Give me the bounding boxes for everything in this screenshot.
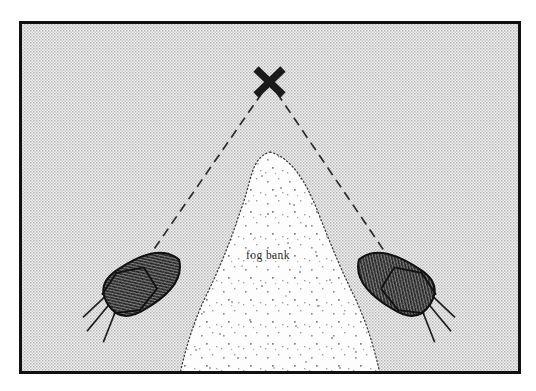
illustration-canvas: fog bank <box>0 0 536 391</box>
illustration-figure: fog bank <box>0 0 536 391</box>
fog-bank-label: fog bank <box>246 249 290 262</box>
